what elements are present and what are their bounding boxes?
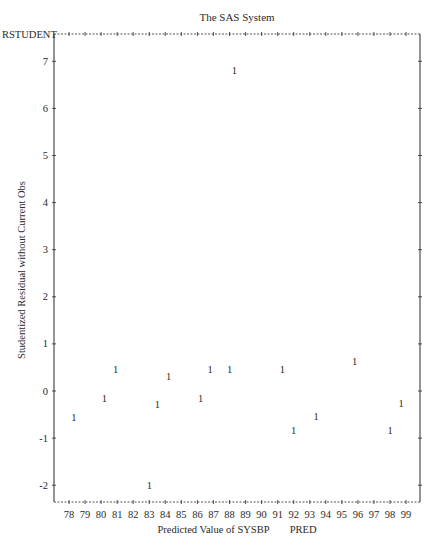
y-variable-name: RSTUDENT xyxy=(2,29,57,40)
x-tick-label: 86 xyxy=(192,509,203,520)
x-axis-label-text: Predicted Value of SYSBP xyxy=(157,524,269,535)
data-point: 1 xyxy=(314,411,319,422)
x-tick-label: 84 xyxy=(160,509,171,520)
x-tick-label: 91 xyxy=(272,509,283,520)
x-tick-label: 95 xyxy=(337,509,348,520)
x-tick-label: 87 xyxy=(208,509,219,520)
x-tick-label: 97 xyxy=(369,509,380,520)
data-point: 1 xyxy=(387,425,392,436)
x-axis-ticks: 7879808182838485868788899091929394959697… xyxy=(64,32,412,520)
x-tick-label: 78 xyxy=(64,509,75,520)
scatter-plot: The SAS System RSTUDENT Studentized Resi… xyxy=(0,0,438,545)
data-point: 1 xyxy=(155,399,160,410)
data-point: 1 xyxy=(166,371,171,382)
data-point: 1 xyxy=(352,356,357,367)
x-tick-label: 94 xyxy=(321,509,332,520)
y-tick-label: 4 xyxy=(43,197,49,208)
x-tick-label: 79 xyxy=(80,509,91,520)
x-tick-label: 83 xyxy=(144,509,155,520)
y-tick-label: -2 xyxy=(39,480,48,491)
data-point: 1 xyxy=(113,364,118,375)
data-points: 1111111111111111 xyxy=(71,65,404,491)
data-point: 1 xyxy=(280,364,285,375)
chart-title: The SAS System xyxy=(199,11,275,23)
x-tick-label: 93 xyxy=(305,509,316,520)
data-point: 1 xyxy=(208,364,213,375)
y-tick-label: 0 xyxy=(43,386,48,397)
y-axis-label: Studentized Residual without Current Obs xyxy=(16,181,27,359)
x-tick-label: 81 xyxy=(112,509,123,520)
data-point: 1 xyxy=(147,480,152,491)
data-point: 1 xyxy=(102,393,107,404)
x-tick-label: 82 xyxy=(128,509,139,520)
y-tick-label: -1 xyxy=(39,433,48,444)
y-tick-label: 6 xyxy=(43,103,48,114)
y-tick-label: 3 xyxy=(43,244,48,255)
x-tick-label: 92 xyxy=(288,509,299,520)
data-point: 1 xyxy=(198,393,203,404)
x-tick-label: 96 xyxy=(353,509,364,520)
y-tick-label: 7 xyxy=(43,56,48,67)
x-tick-label: 85 xyxy=(176,509,187,520)
data-point: 1 xyxy=(71,412,76,423)
x-variable-name: PRED xyxy=(290,524,317,535)
x-tick-label: 80 xyxy=(96,509,107,520)
plot-frame xyxy=(54,34,420,502)
x-tick-label: 89 xyxy=(240,509,251,520)
x-tick-label: 98 xyxy=(385,509,396,520)
y-axis-ticks: -2-101234567 xyxy=(39,56,422,491)
data-point: 1 xyxy=(291,425,296,436)
x-tick-label: 90 xyxy=(256,509,267,520)
data-point: 1 xyxy=(232,65,237,76)
y-tick-label: 5 xyxy=(43,150,48,161)
x-tick-label: 88 xyxy=(224,509,235,520)
data-point: 1 xyxy=(227,364,232,375)
x-tick-label: 99 xyxy=(401,509,412,520)
y-tick-label: 2 xyxy=(43,291,48,302)
data-point: 1 xyxy=(399,398,404,409)
y-tick-label: 1 xyxy=(43,338,48,349)
x-axis-label: Predicted Value of SYSBP PRED xyxy=(157,524,317,535)
